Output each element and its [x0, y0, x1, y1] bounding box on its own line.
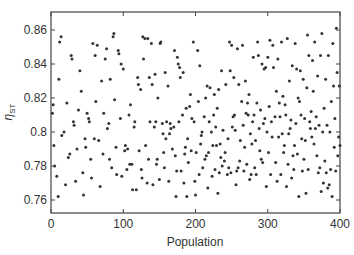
data-point: [70, 54, 73, 57]
data-point: [57, 195, 60, 198]
data-point: [90, 176, 93, 179]
data-point: [298, 100, 301, 103]
plot-border: [51, 12, 340, 213]
data-point: [237, 83, 240, 86]
data-point: [333, 117, 336, 120]
data-point: [185, 107, 188, 110]
data-point: [158, 178, 161, 181]
data-point: [60, 134, 63, 137]
data-point: [294, 122, 297, 125]
data-point: [264, 66, 267, 69]
data-point: [291, 64, 294, 67]
data-point: [94, 54, 97, 57]
data-point: [117, 52, 120, 55]
data-point: [282, 151, 285, 154]
data-point: [220, 69, 223, 72]
data-point: [131, 188, 134, 191]
data-point: [281, 95, 284, 98]
data-point: [189, 93, 192, 96]
data-point: [248, 178, 251, 181]
data-point: [86, 112, 89, 115]
data-point: [240, 100, 243, 103]
data-point: [209, 86, 212, 89]
data-point: [203, 158, 206, 161]
data-point: [154, 73, 157, 76]
data-point: [257, 54, 260, 57]
data-point: [300, 137, 303, 140]
data-point: [337, 136, 340, 139]
data-point: [301, 170, 304, 173]
data-point: [156, 97, 159, 100]
data-point: [250, 142, 253, 145]
data-point: [248, 93, 251, 96]
data-point: [115, 173, 118, 176]
data-point: [228, 40, 231, 43]
data-point: [316, 74, 319, 77]
data-point: [82, 193, 85, 196]
data-point: [309, 127, 312, 130]
data-point: [335, 27, 338, 30]
data-point: [93, 137, 96, 140]
scatter-chart: 0100200300400 0.760.780.80.820.840.86 Po…: [0, 0, 354, 255]
data-point: [244, 80, 247, 83]
data-point: [229, 69, 232, 72]
data-point: [154, 120, 157, 123]
data-point: [138, 149, 141, 152]
data-point: [146, 37, 149, 40]
data-point: [247, 114, 250, 117]
data-point: [80, 90, 83, 93]
data-point: [323, 159, 326, 162]
data-point: [251, 120, 254, 123]
data-point: [106, 127, 109, 130]
data-point: [180, 170, 183, 173]
data-point: [235, 170, 238, 173]
data-point: [327, 54, 330, 57]
data-point: [261, 161, 264, 164]
data-point: [271, 44, 274, 47]
data-point: [104, 57, 107, 60]
data-point: [113, 98, 116, 101]
data-point: [331, 42, 334, 45]
data-point: [324, 78, 327, 81]
data-point: [313, 142, 316, 145]
data-point: [156, 158, 159, 161]
data-point: [320, 32, 323, 35]
data-point: [234, 129, 237, 132]
data-point: [293, 144, 296, 147]
data-point: [57, 78, 60, 81]
data-point: [201, 131, 204, 134]
data-point: [281, 132, 284, 135]
data-point: [187, 161, 190, 164]
data-point: [236, 47, 239, 50]
data-point: [162, 151, 165, 154]
data-point: [256, 40, 259, 43]
data-point: [146, 182, 149, 185]
data-point: [141, 176, 144, 179]
data-point: [142, 57, 145, 60]
data-point: [246, 102, 249, 105]
data-point: [198, 64, 201, 67]
y-tick-label: 0.78: [24, 159, 48, 173]
data-point: [214, 125, 217, 128]
data-point: [224, 151, 227, 154]
data-point: [214, 168, 217, 171]
data-point: [274, 115, 277, 118]
data-point: [100, 80, 103, 83]
data-point: [224, 83, 227, 86]
data-point: [266, 131, 269, 134]
data-point: [52, 144, 55, 147]
data-point: [169, 127, 172, 130]
data-point: [182, 182, 185, 185]
data-point: [190, 149, 193, 152]
data-point: [252, 56, 255, 59]
data-point: [239, 139, 242, 142]
data-point: [312, 90, 315, 93]
data-point: [283, 144, 286, 147]
data-point: [201, 166, 204, 169]
data-point: [325, 171, 328, 174]
data-point: [276, 57, 279, 60]
data-point: [188, 105, 191, 108]
data-point: [78, 69, 81, 72]
data-point: [336, 71, 339, 74]
data-point: [287, 163, 290, 166]
